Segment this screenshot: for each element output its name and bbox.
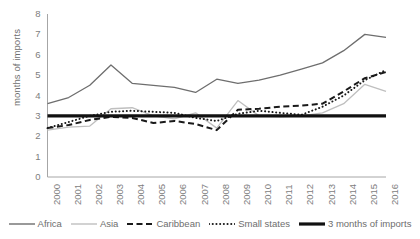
series-line-asia — [48, 84, 387, 130]
legend-item-3-months-of-imports[interactable]: 3 months of imports — [299, 218, 411, 229]
legend-label: 3 months of imports — [328, 218, 411, 229]
legend-swatch-icon — [127, 220, 153, 228]
legend-swatch-icon — [9, 220, 35, 228]
legend-label: Africa — [38, 218, 62, 229]
legend-label: Asia — [100, 218, 118, 229]
legend-swatch-icon — [71, 220, 97, 228]
series-layer — [48, 34, 387, 130]
legend-label: Small states — [238, 218, 290, 229]
line-plot — [0, 0, 420, 239]
series-line-africa — [48, 34, 387, 103]
chart-figure: months of imports 012345678 200020012002… — [0, 0, 420, 239]
legend-item-caribbean[interactable]: Caribbean — [127, 218, 200, 229]
axes — [48, 14, 387, 177]
legend-swatch-icon — [209, 220, 235, 228]
legend-item-small-states[interactable]: Small states — [209, 218, 290, 229]
legend-item-africa[interactable]: Africa — [9, 218, 62, 229]
legend-swatch-icon — [299, 220, 325, 228]
legend-item-asia[interactable]: Asia — [71, 218, 118, 229]
legend-label: Caribbean — [156, 218, 200, 229]
chart-legend: AfricaAsiaCaribbeanSmall states3 months … — [0, 218, 420, 229]
series-line-caribbean — [48, 72, 387, 130]
